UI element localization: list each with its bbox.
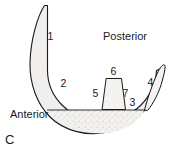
label-5: 5 [93, 87, 99, 99]
label-1: 1 [48, 30, 54, 42]
figure-panel-c: 1 2 3 4 5 6 7 Anterior Posterior C [0, 0, 173, 151]
label-3: 3 [130, 96, 136, 108]
label-6: 6 [111, 65, 117, 77]
label-4: 4 [148, 76, 154, 88]
posterior-label: Posterior [103, 30, 147, 42]
anatomical-cross-section-diagram: 1 2 3 4 5 6 7 Anterior Posterior C [0, 0, 173, 151]
anterior-label: Anterior [10, 108, 49, 120]
label-7: 7 [123, 87, 129, 99]
label-2: 2 [61, 77, 67, 89]
panel-letter-label: C [5, 132, 14, 147]
